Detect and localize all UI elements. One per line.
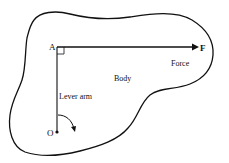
force-arrowhead-icon bbox=[192, 44, 199, 51]
rotation-arrowhead-icon bbox=[71, 126, 76, 132]
body-outline bbox=[10, 12, 214, 155]
torque-diagram: A F O Force Body Lever arm bbox=[0, 0, 229, 163]
point-o-label: O bbox=[47, 128, 54, 138]
pivot-dot bbox=[55, 130, 58, 133]
force-label: Force bbox=[171, 59, 190, 68]
right-angle-marker bbox=[57, 47, 64, 54]
body-label: Body bbox=[114, 74, 131, 83]
point-a-label: A bbox=[49, 42, 56, 52]
lever-arm-label: Lever arm bbox=[59, 92, 93, 101]
point-f-label: F bbox=[200, 43, 206, 53]
